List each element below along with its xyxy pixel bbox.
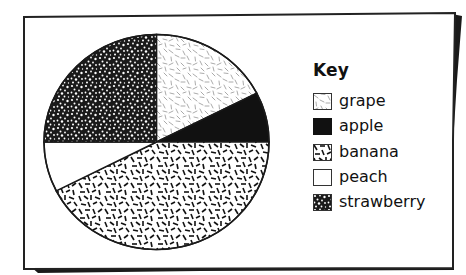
legend-swatch-peach [313, 169, 332, 186]
pie-chart [44, 35, 269, 250]
legend-swatch-apple [313, 118, 332, 135]
legend-swatch-strawberry [313, 194, 332, 211]
legend-label: banana [339, 142, 399, 162]
legend-label: strawberry [339, 192, 425, 212]
legend-swatch-grape [313, 93, 332, 110]
legend-label: apple [339, 116, 383, 136]
legend-swatch-banana [313, 144, 332, 161]
legend-label: grape [339, 91, 386, 111]
legend-label: peach [339, 167, 388, 187]
chart-card [0, 0, 466, 275]
legend-title: Key [313, 60, 349, 80]
